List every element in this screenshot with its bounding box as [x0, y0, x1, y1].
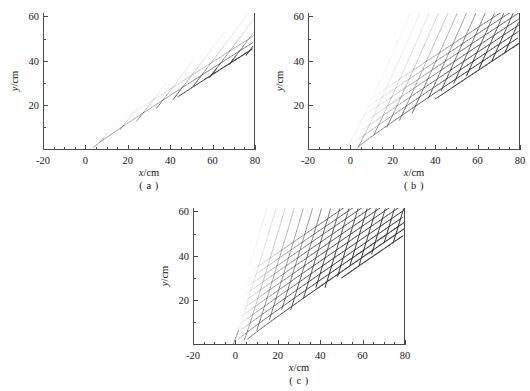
panel-b: -20020406080 204060 x/cm y/cm ( b )	[265, 0, 530, 195]
y-tick-minor	[43, 39, 46, 40]
wave-pattern-b	[308, 13, 520, 150]
x-tick-minor	[425, 147, 426, 150]
x-tick-label: 80	[515, 156, 526, 167]
x-tick-minor	[138, 147, 139, 150]
wave-pattern-a	[43, 13, 255, 150]
caption-a: ( a )	[139, 180, 158, 191]
x-tick-major	[350, 145, 351, 150]
x-tick-minor	[384, 342, 385, 345]
x-tick-major	[520, 145, 521, 150]
x-tick-label: 40	[430, 156, 441, 167]
y-tick-minor	[193, 278, 196, 279]
y-tick-minor	[308, 127, 311, 128]
x-tick-minor	[223, 147, 224, 150]
x-tick-minor	[319, 147, 320, 150]
x-tick-minor	[204, 342, 205, 345]
wave-pattern-c	[193, 208, 405, 345]
x-tick-major	[128, 145, 129, 150]
y-tick-minor	[43, 149, 46, 150]
y-tick-major	[308, 16, 313, 17]
plot-area-b	[308, 13, 520, 150]
y-axis-line-b	[308, 13, 309, 150]
y-tick-major	[308, 105, 313, 106]
x-tick-major	[235, 340, 236, 345]
x-tick-major	[85, 145, 86, 150]
y-axis-title-b: y/cm	[274, 71, 285, 91]
x-tick-major	[255, 145, 256, 150]
x-tick-minor	[403, 147, 404, 150]
x-tick-minor	[181, 147, 182, 150]
x-tick-minor	[329, 147, 330, 150]
y-tick-minor	[308, 39, 311, 40]
y-axis-line-a	[43, 13, 44, 150]
y-tick-label: 40	[171, 251, 189, 262]
x-axis-title-b: x/cm	[404, 167, 424, 178]
x-tick-label: 0	[233, 351, 238, 362]
x-tick-minor	[456, 147, 457, 150]
y-tick-major	[43, 16, 48, 17]
y-tick-minor	[43, 83, 46, 84]
y-tick-major	[193, 256, 198, 257]
y-tick-major	[193, 211, 198, 212]
x-tick-label: -20	[36, 156, 50, 167]
x-axis-title-c: x/cm	[289, 362, 309, 373]
x-tick-minor	[75, 147, 76, 150]
x-tick-major	[278, 340, 279, 345]
x-tick-major	[170, 145, 171, 150]
x-tick-minor	[96, 147, 97, 150]
x-tick-label: 80	[250, 156, 261, 167]
x-tick-minor	[191, 147, 192, 150]
x-tick-minor	[54, 147, 55, 150]
x-tick-minor	[446, 147, 447, 150]
y-tick-minor	[193, 344, 196, 345]
x-tick-label: -20	[301, 156, 315, 167]
x-tick-minor	[352, 342, 353, 345]
x-tick-minor	[414, 147, 415, 150]
x-tick-label: -20	[186, 351, 200, 362]
panel-c: -20020406080 204060 x/cm y/cm ( c )	[131, 195, 399, 391]
x-tick-minor	[160, 147, 161, 150]
x-tick-minor	[310, 342, 311, 345]
x-tick-label: 60	[207, 156, 218, 167]
y-tick-major	[193, 300, 198, 301]
plot-area-c	[193, 208, 405, 345]
y-tick-minor	[308, 83, 311, 84]
y-axis-title-a: y/cm	[9, 71, 20, 91]
x-tick-minor	[257, 342, 258, 345]
x-tick-major	[320, 340, 321, 345]
y-tick-minor	[308, 149, 311, 150]
plot-area-a	[43, 13, 255, 150]
y-tick-minor	[193, 322, 196, 323]
x-tick-label: 0	[348, 156, 353, 167]
x-tick-minor	[331, 342, 332, 345]
x-tick-minor	[361, 147, 362, 150]
y-tick-label: 40	[286, 56, 304, 67]
y-tick-label: 60	[171, 207, 189, 218]
figure-container: -20020406080 204060 x/cm y/cm ( a ) -200…	[0, 0, 530, 391]
y-tick-label: 20	[21, 101, 39, 112]
x-tick-minor	[340, 147, 341, 150]
x-tick-label: 80	[400, 351, 411, 362]
x-tick-minor	[467, 147, 468, 150]
x-tick-minor	[107, 147, 108, 150]
x-tick-minor	[214, 342, 215, 345]
y-tick-major	[43, 61, 48, 62]
caption-b: ( b )	[404, 180, 424, 191]
x-tick-minor	[246, 342, 247, 345]
x-tick-minor	[64, 147, 65, 150]
x-tick-minor	[149, 147, 150, 150]
y-tick-label: 60	[286, 12, 304, 23]
y-tick-label: 20	[171, 296, 189, 307]
y-tick-label: 60	[21, 12, 39, 23]
x-tick-label: 20	[123, 156, 134, 167]
y-tick-minor	[43, 127, 46, 128]
x-tick-minor	[372, 147, 373, 150]
x-tick-minor	[299, 342, 300, 345]
panel-a: -20020406080 204060 x/cm y/cm ( a )	[0, 0, 265, 195]
y-tick-minor	[193, 234, 196, 235]
x-tick-minor	[499, 147, 500, 150]
y-tick-major	[43, 105, 48, 106]
x-tick-minor	[373, 342, 374, 345]
x-tick-label: 60	[357, 351, 368, 362]
x-tick-minor	[341, 342, 342, 345]
